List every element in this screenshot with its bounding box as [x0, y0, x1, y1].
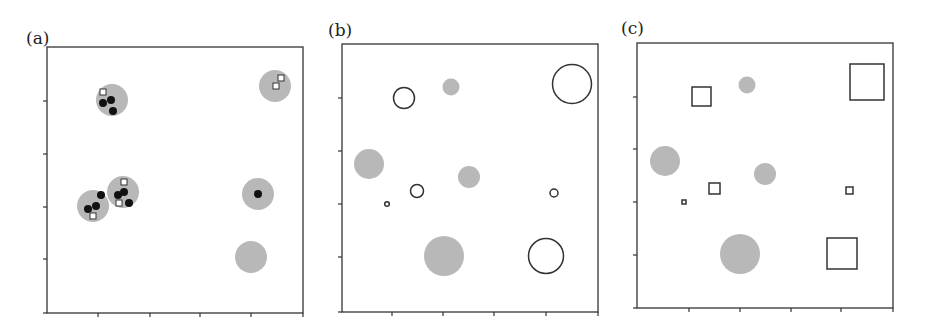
figure: (a)	[0, 0, 927, 333]
panel-c-open-squares	[682, 64, 884, 269]
panel-c-gray-circles	[650, 77, 776, 275]
cluster-upper-right	[259, 70, 291, 102]
panel-a: (a)	[26, 28, 303, 317]
cluster-lower-right	[235, 241, 267, 273]
panel-a-label: (a)	[26, 28, 49, 48]
panel-b: (b)	[328, 20, 598, 316]
panel-b-gray-circles	[354, 79, 480, 277]
panel-b-label: (b)	[328, 20, 352, 40]
cluster-lower-left-1	[77, 190, 109, 222]
cluster-middle-right	[242, 178, 274, 210]
panel-b-open-circles	[385, 65, 592, 274]
cluster-lower-left-2	[107, 176, 139, 208]
panel-c-label: (c)	[621, 18, 644, 38]
panel-c: (c)	[621, 18, 893, 312]
cluster-upper-left	[96, 84, 128, 116]
